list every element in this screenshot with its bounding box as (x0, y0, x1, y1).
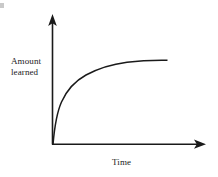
plot-area (0, 0, 218, 177)
learning-curve-path (53, 60, 168, 144)
x-axis-label: Time (112, 157, 131, 168)
y-axis-label-line-2: learned (11, 67, 41, 78)
learning-curve-figure: Amount learned Time (0, 0, 218, 177)
y-axis-label-line-1: Amount (11, 56, 41, 67)
y-axis-label: Amount learned (11, 56, 41, 78)
